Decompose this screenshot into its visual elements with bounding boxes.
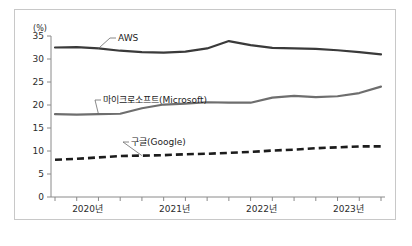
chart-screenshot: (%) 05101520253035 2020년2021년2022년2023년 … (0, 0, 412, 246)
chart-card (14, 9, 396, 220)
